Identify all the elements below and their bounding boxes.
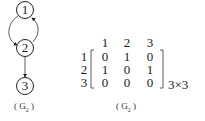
graph-node-2: 2 [16,39,34,57]
caption-paren: ) [133,101,136,111]
graph-node-1: 1 [16,1,34,19]
matrix-left-bracket [91,50,94,88]
node-label: 3 [22,78,29,93]
caption-subscript: 2 [128,107,131,113]
matrix-cell: 0 [99,76,111,89]
node-label: 2 [22,40,29,55]
matrix-column-header: 1 [99,36,111,49]
matrix-column-header: 3 [144,36,156,49]
edge-2-to-1 [32,18,38,42]
matrix-dimension-label: 3×3 [168,78,188,91]
node-label: 1 [22,2,29,17]
caption-subscript: 2 [26,107,29,113]
caption-paren: ( [14,101,17,111]
matrix-cell: 0 [144,76,156,89]
matrix-right-bracket [160,50,163,88]
caption-paren: ( [116,101,119,111]
matrix-cell: 0 [121,76,133,89]
graph-caption: ( G2 ) [14,101,34,113]
matrix-caption: ( G2 ) [116,101,136,113]
graph-node-3: 3 [16,77,34,95]
matrix-row-header: 3 [78,76,90,89]
caption-paren: ) [31,101,34,111]
matrix-column-header: 2 [121,36,133,49]
edge-1-to-2 [9,16,18,45]
